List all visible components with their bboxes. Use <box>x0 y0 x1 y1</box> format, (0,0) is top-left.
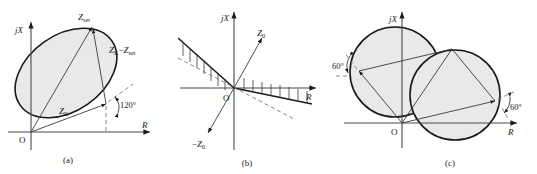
z0-vector <box>234 38 262 88</box>
upper-boundary-hatching <box>183 42 225 90</box>
lower-boundary-hatching <box>244 78 307 103</box>
angle-label-left-60: 60° <box>332 61 344 71</box>
right-circle-region <box>410 50 500 140</box>
origin-label-a: O <box>19 135 26 145</box>
real-axis-label-a: R <box>141 120 148 130</box>
real-axis-label-b: R <box>305 92 312 102</box>
imaginary-axis-label-a: jX <box>14 25 24 35</box>
caption-b: (b) <box>242 158 253 168</box>
panel-a-drawing: jX R O Zset ZK ZK−Zset 120° (a) <box>0 0 180 174</box>
origin-label-b: O <box>223 93 230 103</box>
real-axis-label-c: R <box>507 127 514 137</box>
zk-minus-zset-label: ZK−Zset <box>109 45 136 56</box>
right-angle-baseline-dashed <box>502 108 509 120</box>
lower-boundary-line <box>234 88 312 104</box>
dashed-reference-line <box>178 58 296 120</box>
negative-z0-vector <box>208 88 234 133</box>
imaginary-axis-label-c: jX <box>388 14 398 24</box>
origin-label-c: O <box>391 127 398 137</box>
upper-boundary-line <box>178 38 234 88</box>
panel-c: 60° 60° jX R O (c) <box>332 0 537 174</box>
imaginary-axis-label-b: jX <box>220 13 230 23</box>
z0-label: Z0 <box>257 28 265 39</box>
angle-arc-120 <box>115 97 119 113</box>
angle-label-120: 120° <box>120 100 136 110</box>
caption-a: (a) <box>63 155 73 165</box>
panel-b: jX R O Z0 −Z0 (b) <box>178 0 338 174</box>
figure-root: jX R O Zset ZK ZK−Zset 120° (a) <box>0 0 537 174</box>
caption-c: (c) <box>445 158 455 168</box>
panel-b-drawing: jX R O Z0 −Z0 (b) <box>178 0 338 174</box>
negative-z0-label: −Z0 <box>192 139 205 150</box>
panel-a: jX R O Zset ZK ZK−Zset 120° (a) <box>0 0 180 174</box>
z-set-label: Zset <box>78 12 90 23</box>
panel-c-drawing: 60° 60° jX R O (c) <box>332 0 537 174</box>
angle-label-right-60: 60° <box>510 102 522 112</box>
